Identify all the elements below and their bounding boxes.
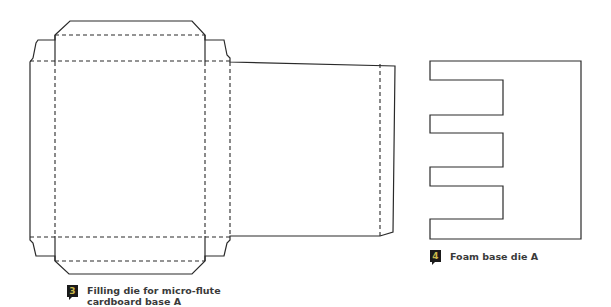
figure-number-badge: 4	[430, 250, 441, 262]
filling-die-outline	[30, 21, 395, 274]
figure-3-caption: 3 Filling die for micro-flute cardboard …	[67, 285, 221, 307]
caption-line: cardboard base A	[87, 296, 221, 307]
figure-4-caption: 4 Foam base die A	[430, 250, 538, 262]
caption-text: Foam base die A	[450, 250, 538, 262]
caption-line: Foam base die A	[450, 251, 538, 262]
foam-base-die-4	[430, 61, 581, 239]
caption-text: Filling die for micro-flute cardboard ba…	[87, 285, 221, 307]
figure-number-badge: 3	[67, 285, 78, 297]
filling-die-3	[30, 21, 395, 274]
caption-line: Filling die for micro-flute	[87, 285, 221, 296]
foam-die-outline	[430, 61, 581, 239]
